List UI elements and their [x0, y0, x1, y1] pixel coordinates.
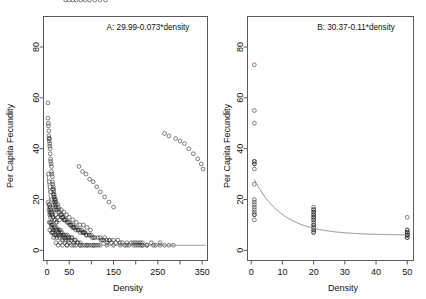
data-point: [98, 0, 102, 2]
data-point: [65, 243, 69, 247]
y-tick-label: 80: [235, 42, 245, 52]
data-point: [107, 200, 111, 204]
data-point: [178, 139, 182, 143]
data-point: [149, 241, 153, 245]
panel-a-y-axis-title: Per Capita Fecundity: [5, 103, 15, 188]
data-point: [103, 236, 107, 240]
panel-a-plot: A: 29.99-0.073*density Per Capita Fecund…: [0, 0, 213, 299]
data-point: [56, 243, 60, 247]
panel-a-x-axis-title: Density: [113, 283, 144, 293]
panel-b-x-ticks: 01020304050: [249, 261, 413, 277]
y-tick-label: 80: [31, 42, 41, 52]
data-point: [196, 157, 200, 161]
data-point: [201, 167, 205, 171]
data-point: [74, 220, 78, 224]
panel-b-data-points: [252, 63, 409, 240]
data-point: [252, 109, 256, 113]
data-point: [71, 0, 75, 2]
data-point: [104, 0, 108, 2]
data-point: [91, 180, 95, 184]
data-point: [163, 132, 167, 136]
data-point: [71, 218, 75, 222]
data-point: [46, 124, 50, 128]
data-point: [191, 152, 195, 156]
data-point: [98, 236, 102, 240]
y-tick-label: 0: [235, 248, 245, 253]
data-point: [114, 241, 118, 245]
data-point: [61, 243, 65, 247]
panel-b-frame: [248, 17, 414, 261]
data-point: [85, 226, 89, 230]
y-tick-label: 40: [235, 144, 245, 154]
data-point: [81, 231, 85, 235]
panel-a-title: A: 29.99-0.073*density: [107, 23, 191, 32]
data-point: [167, 134, 171, 138]
x-tick-label: 40: [371, 267, 381, 277]
data-point: [77, 165, 81, 169]
data-point: [252, 167, 256, 171]
data-point: [89, 228, 93, 232]
x-tick-label: 10: [277, 267, 287, 277]
data-point: [50, 165, 54, 169]
data-point: [84, 172, 88, 176]
panel-b-title-group: B: 30.37-0.11*density: [317, 23, 396, 32]
y-tick-label: 60: [235, 93, 245, 103]
data-point: [136, 241, 140, 245]
panel-a-y-ticks: 020406080: [31, 42, 44, 253]
panel-b-y-ticks: 020406080: [235, 42, 248, 253]
data-point: [312, 231, 316, 235]
y-tick-label: 20: [31, 194, 41, 204]
x-tick-label: 50: [64, 267, 74, 277]
y-tick-label: 60: [31, 93, 41, 103]
panel-a-data-points: [46, 0, 205, 247]
data-point: [48, 147, 52, 151]
panel-a-x-ticks: 050150250350: [45, 261, 210, 277]
data-point: [88, 0, 92, 2]
x-tick-label: 20: [309, 267, 319, 277]
data-point: [252, 121, 256, 125]
data-point: [83, 0, 87, 2]
data-point: [405, 236, 409, 240]
data-point: [252, 218, 256, 222]
panel-b-x-axis-title: Density: [328, 283, 359, 293]
panel-b-y-axis-title: Per Capita Fecundity: [222, 103, 232, 188]
data-point: [405, 215, 409, 219]
data-point: [81, 223, 85, 227]
data-point: [64, 0, 68, 2]
data-point: [67, 0, 71, 2]
data-point: [74, 0, 78, 2]
y-tick-label: 20: [235, 194, 245, 204]
data-point: [78, 223, 82, 227]
panel-b-xlabel-group: Density: [328, 283, 359, 293]
panel-a-title-group: A: 29.99-0.073*density: [107, 23, 191, 32]
x-tick-label: 50: [402, 267, 412, 277]
data-point: [46, 101, 50, 105]
data-point: [58, 241, 62, 245]
data-point: [47, 129, 51, 133]
panel-a: A: 29.99-0.073*density Per Capita Fecund…: [0, 0, 213, 299]
panel-a-fit-curve: [47, 174, 206, 245]
data-point: [252, 213, 256, 217]
data-point: [46, 116, 50, 120]
data-point: [95, 185, 99, 189]
data-point: [116, 238, 120, 242]
data-point: [252, 63, 256, 67]
panel-a-xlabel-group: Density: [113, 283, 144, 293]
data-point: [103, 195, 107, 199]
data-point: [199, 162, 203, 166]
panel-b-title: B: 30.37-0.11*density: [317, 23, 396, 32]
data-point: [67, 215, 71, 219]
data-point: [252, 162, 256, 166]
data-point: [79, 0, 83, 2]
x-tick-label: 0: [249, 267, 254, 277]
data-point: [112, 205, 116, 209]
y-tick-label: 0: [31, 248, 41, 253]
panel-b: B: 30.37-0.11*density Per Capita Fecundi…: [213, 0, 426, 299]
y-tick-label: 40: [31, 144, 41, 154]
data-point: [187, 147, 191, 151]
panel-b-fit-curve: [254, 180, 410, 235]
data-point: [54, 241, 58, 245]
data-point: [132, 241, 136, 245]
data-point: [112, 238, 116, 242]
panel-b-plot: B: 30.37-0.11*density Per Capita Fecundi…: [213, 0, 426, 299]
